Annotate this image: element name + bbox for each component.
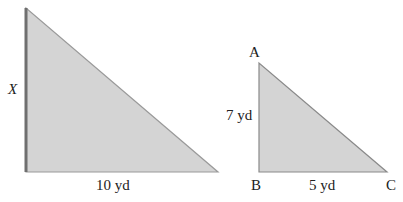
label-5yd: 5 yd [309, 178, 335, 193]
diagram-canvas [0, 0, 403, 202]
vertex-a-label: A [249, 45, 260, 60]
label-x: X [8, 82, 17, 97]
vertex-b-label: B [251, 178, 261, 193]
label-10yd: 10 yd [96, 178, 130, 193]
small-triangle [259, 63, 387, 172]
vertex-c-label: C [386, 178, 396, 193]
large-triangle [26, 8, 218, 172]
label-7yd: 7 yd [226, 108, 252, 123]
